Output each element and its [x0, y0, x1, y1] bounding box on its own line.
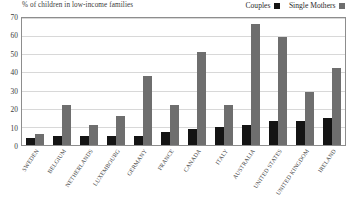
- y-axis-tick-label: 50: [11, 49, 18, 58]
- bar-couples[interactable]: [296, 121, 305, 145]
- bar-couples[interactable]: [161, 132, 170, 145]
- bar-single-mothers[interactable]: [278, 37, 287, 145]
- bar-couples[interactable]: [26, 138, 35, 145]
- legend-swatch-icon: [339, 3, 345, 9]
- bar-single-mothers[interactable]: [251, 24, 260, 145]
- x-axis-tick-label: ITALY: [214, 148, 229, 166]
- bar-couples[interactable]: [269, 121, 278, 145]
- bar-couples[interactable]: [53, 136, 62, 145]
- bar-single-mothers[interactable]: [197, 52, 206, 145]
- y-axis-tick-label: 0: [14, 142, 18, 151]
- legend-label: Single Mothers: [289, 1, 336, 10]
- legend-entry[interactable]: Single Mothers: [289, 1, 345, 10]
- y-axis-tick-label: 30: [11, 86, 18, 95]
- legend-entry[interactable]: Couples: [245, 1, 279, 10]
- x-label-slot: CANADA: [184, 147, 211, 200]
- x-axis-tick-label: CANADA: [182, 148, 202, 173]
- chart-title: % of children in low-income families: [22, 1, 133, 9]
- x-axis-tick-label: SWEDEN: [21, 148, 40, 172]
- chart-legend: CouplesSingle Mothers: [245, 1, 345, 10]
- x-axis-labels: SWEDENBELGIUMNETHERLANDSLUXEMBOURGGERMAN…: [22, 147, 345, 200]
- bar-group: [291, 17, 318, 145]
- bar-couples[interactable]: [323, 118, 332, 145]
- x-label-slot: GERMANY: [130, 147, 157, 200]
- x-axis-tick-label: GERMANY: [126, 148, 148, 177]
- bar-single-mothers[interactable]: [116, 116, 125, 145]
- y-axis-tick-label: 70: [11, 13, 18, 22]
- bar-groups: [22, 17, 345, 145]
- x-label-slot: IRELAND: [318, 147, 345, 200]
- bar-single-mothers[interactable]: [89, 125, 98, 145]
- bar-group: [76, 17, 103, 145]
- bar-single-mothers[interactable]: [170, 105, 179, 145]
- bar-group: [237, 17, 264, 145]
- x-label-slot: UNITED KINGDOM: [291, 147, 318, 200]
- bar-single-mothers[interactable]: [224, 105, 233, 145]
- bar-couples[interactable]: [107, 136, 116, 145]
- x-label-slot: FRANCE: [157, 147, 184, 200]
- bar-single-mothers[interactable]: [143, 76, 152, 145]
- bar-group: [103, 17, 130, 145]
- bar-couples[interactable]: [215, 127, 224, 145]
- bar-couples[interactable]: [188, 129, 197, 145]
- y-axis-tick-label: 40: [11, 68, 18, 77]
- bar-group: [184, 17, 211, 145]
- bar-group: [318, 17, 345, 145]
- y-axis-tick-label: 10: [11, 123, 18, 132]
- chart-header: % of children in low-income families Cou…: [0, 0, 349, 15]
- bar-couples[interactable]: [242, 125, 251, 145]
- bar-single-mothers[interactable]: [35, 134, 44, 145]
- x-axis-tick-label: BELGIUM: [47, 148, 68, 174]
- bar-single-mothers[interactable]: [305, 92, 314, 145]
- legend-swatch-icon: [274, 3, 280, 9]
- x-axis-tick-label: IRELAND: [317, 148, 337, 174]
- x-label-slot: SWEDEN: [22, 147, 49, 200]
- bar-group: [22, 17, 49, 145]
- y-axis-tick-label: 60: [11, 31, 18, 40]
- bar-group: [210, 17, 237, 145]
- bar-couples[interactable]: [80, 136, 89, 145]
- y-axis: 010203040506070: [0, 17, 21, 146]
- y-axis-tick-label: 20: [11, 105, 18, 114]
- bar-group: [49, 17, 76, 145]
- chart-container: % of children in low-income families Cou…: [0, 0, 349, 200]
- bar-single-mothers[interactable]: [332, 68, 341, 145]
- legend-label: Couples: [245, 1, 270, 10]
- bar-single-mothers[interactable]: [62, 105, 71, 145]
- bar-couples[interactable]: [134, 136, 143, 145]
- bar-group: [130, 17, 157, 145]
- bar-group: [157, 17, 184, 145]
- x-axis-tick-label: FRANCE: [157, 148, 175, 171]
- bar-group: [264, 17, 291, 145]
